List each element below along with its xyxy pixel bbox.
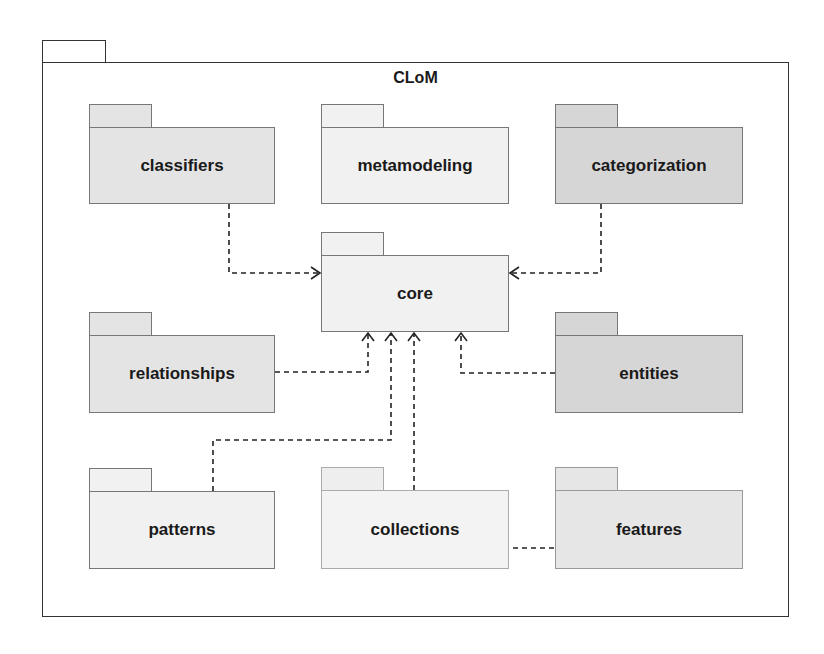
dependency-classifiers-core [229,204,319,273]
dependency-connectors [0,0,824,654]
arrowhead-icon [385,333,397,341]
dependency-relationships-core [275,334,368,372]
dependency-patterns-core [213,334,391,491]
dependency-entities-core [461,334,555,373]
dependency-categorization-core [511,204,601,273]
